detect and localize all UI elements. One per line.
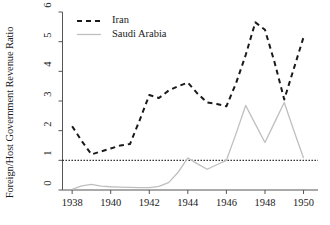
x-tick-label: 1938 [54,197,90,208]
series-lines [72,22,303,189]
y-tick-label: 4 [41,62,52,78]
y-tick-label: 0 [41,181,52,197]
y-tick-label: 6 [41,3,52,19]
y-tick-label: 1 [41,151,52,167]
legend-marks [77,21,101,35]
x-tick-label: 1948 [247,197,283,208]
y-tick-label: 3 [41,92,52,108]
chart-figure: Foreign/Host Government Revenue Ratio 01… [0,0,330,225]
legend-item-label: Iran [112,14,129,25]
x-tick-label: 1942 [131,197,167,208]
axes [59,12,319,194]
x-tick-label: 1944 [170,197,206,208]
x-tick-label: 1946 [208,197,244,208]
y-tick-label: 5 [41,32,52,48]
x-tick-label: 1950 [286,197,322,208]
x-tick-label: 1940 [93,197,129,208]
y-tick-label: 2 [41,121,52,137]
legend-item-label: Saudi Arabia [112,28,167,39]
